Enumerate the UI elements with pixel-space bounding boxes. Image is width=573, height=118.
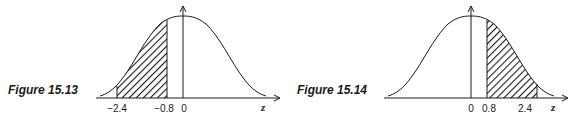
shaded-area: [487, 0, 537, 98]
tick-label: 0.8: [482, 103, 496, 114]
tick-label: 0: [468, 103, 474, 114]
normal-curve-right-tail-diagram: [0, 0, 573, 118]
axis-variable-label: z: [551, 101, 555, 113]
tick-label: 2.4: [518, 103, 532, 114]
